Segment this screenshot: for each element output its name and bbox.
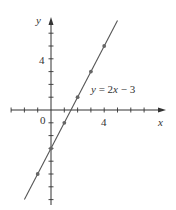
data-point <box>36 172 40 176</box>
data-point <box>49 147 53 151</box>
y-tick-label-4: 4 <box>39 54 45 66</box>
x-axis-label: x <box>157 116 163 128</box>
line-chart: y x 0 4 4 y = 2x − 3 <box>0 0 176 210</box>
x-axis-arrow-icon <box>158 108 166 113</box>
data-point <box>89 70 93 74</box>
x-tick-label-4: 4 <box>101 116 107 128</box>
tick-marks <box>11 33 144 199</box>
axes <box>11 17 166 205</box>
y-axis-arrow-icon <box>49 17 54 25</box>
origin-label: 0 <box>40 114 46 126</box>
y-axis-label: y <box>35 14 41 26</box>
equation-label: y = 2x − 3 <box>90 83 136 95</box>
data-point <box>102 44 106 48</box>
data-point <box>76 95 80 99</box>
data-point <box>62 121 66 125</box>
